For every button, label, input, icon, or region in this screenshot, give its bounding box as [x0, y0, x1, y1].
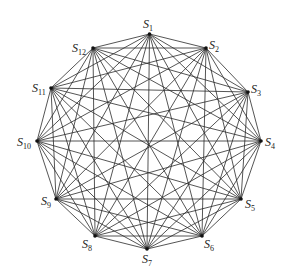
vertex-label-s11: S11: [32, 81, 46, 97]
edge-s9-s11: [51, 88, 56, 199]
edge-s8-s12: [93, 48, 95, 236]
edge-s5-s8: [95, 199, 241, 236]
vertex-s4: [259, 139, 263, 143]
edge-s9-s10: [37, 141, 56, 199]
edge-s7-s12: [93, 48, 147, 249]
vertex-s5: [239, 197, 243, 201]
edge-s1-s3: [150, 34, 249, 92]
vertex-label-s6: S6: [204, 237, 214, 253]
vertex-s8: [93, 234, 97, 238]
edge-s2-s3: [206, 48, 248, 92]
edge-s2-s8: [95, 48, 206, 236]
edge-s3-s11: [51, 88, 248, 92]
edge-s1-s2: [150, 34, 207, 48]
vertex-label-s5: S5: [245, 197, 255, 213]
vertex-s7: [145, 247, 149, 251]
vertex-s9: [54, 197, 58, 201]
edge-s3-s4: [248, 92, 261, 141]
vertex-label-s2: S2: [209, 38, 219, 54]
graph-edges: [37, 34, 261, 249]
vertex-label-s9: S9: [41, 194, 51, 210]
vertex-label-s10: S10: [17, 135, 31, 151]
vertex-s12: [91, 46, 95, 50]
vertex-label-s1: S1: [143, 17, 153, 33]
edge-s7-s8: [95, 236, 147, 249]
edge-s6-s7: [147, 236, 202, 249]
vertex-labels: S1S2S3S4S5S6S7S8S9S10S11S12: [17, 17, 275, 268]
vertex-label-s3: S3: [251, 82, 261, 98]
edge-s7-s9: [56, 199, 147, 249]
edge-s3-s7: [147, 92, 248, 249]
vertex-s10: [35, 139, 39, 143]
vertex-label-s12: S12: [72, 41, 86, 57]
vertex-label-s7: S7: [142, 252, 152, 268]
vertex-s11: [49, 86, 53, 90]
vertex-label-s4: S4: [265, 135, 275, 151]
vertex-label-s8: S8: [82, 237, 92, 253]
vertex-s3: [246, 90, 250, 94]
edge-s1-s12: [93, 34, 150, 48]
complete-graph-diagram: S1S2S3S4S5S6S7S8S9S10S11S12: [0, 0, 288, 278]
vertex-s2: [204, 46, 208, 50]
